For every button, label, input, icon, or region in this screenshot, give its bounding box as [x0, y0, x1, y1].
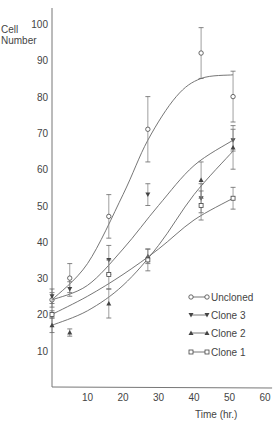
y-tick-label: 10	[37, 346, 49, 357]
data-point-marker	[107, 272, 111, 276]
data-point-marker	[231, 94, 235, 98]
data-point-marker	[231, 196, 235, 200]
y-tick-label: 50	[37, 201, 49, 212]
data-point-marker	[106, 301, 111, 306]
data-point-marker	[67, 330, 72, 335]
data-point-marker	[231, 145, 236, 150]
legend-marker-right	[205, 295, 209, 299]
fit-curve-clone-3	[52, 140, 233, 300]
y-tick-label: 100	[31, 19, 48, 30]
x-tick-label: 30	[153, 392, 165, 403]
data-point-marker	[145, 193, 150, 198]
x-tick-label: 40	[188, 392, 200, 403]
fit-curve-uncloned	[52, 75, 233, 300]
data-point-marker	[199, 178, 204, 183]
x-tick-label: 10	[82, 392, 94, 403]
y-tick-label: 40	[37, 237, 49, 248]
legend-label: Clone 2	[211, 328, 246, 339]
data-point-marker	[107, 214, 111, 218]
legend-marker-right	[205, 350, 209, 354]
legend-marker-left	[189, 295, 193, 299]
y-tick-label: 80	[37, 92, 49, 103]
data-point-marker	[199, 204, 203, 208]
x-axis	[52, 387, 272, 388]
y-tick-label: 60	[37, 164, 49, 175]
legend-label: Clone 1	[211, 347, 246, 358]
x-tick-label: 50	[224, 392, 236, 403]
legend-label: Uncloned	[211, 292, 253, 303]
data-point-marker	[146, 127, 150, 131]
growth-chart: 102030405060708090100102030405060Unclone…	[0, 0, 275, 426]
x-tick-label: 60	[259, 392, 271, 403]
legend-marker-left	[189, 350, 193, 354]
y-tick-label: 90	[37, 55, 49, 66]
data-point-marker	[67, 287, 72, 292]
data-point-marker	[199, 51, 203, 55]
legend-label: Clone 3	[211, 310, 246, 321]
y-tick-label: 70	[37, 128, 49, 139]
data-point-marker	[146, 258, 150, 262]
y-tick-label: 20	[37, 309, 49, 320]
data-point-marker	[68, 276, 72, 280]
y-tick-label: 30	[37, 273, 49, 284]
x-tick-label: 20	[117, 392, 129, 403]
data-point-marker	[50, 312, 54, 316]
